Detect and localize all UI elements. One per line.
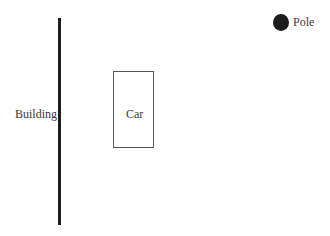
building-label: Building [15,107,57,122]
car-label: Car [126,107,143,122]
pole-circle-icon [273,14,289,31]
building-wall-line [58,18,61,225]
pole-label: Pole [293,15,314,30]
